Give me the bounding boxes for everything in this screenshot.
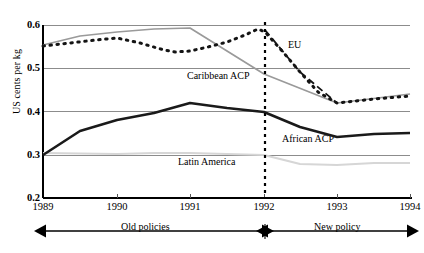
series-line-eu <box>43 29 410 103</box>
chart-canvas <box>0 0 424 253</box>
chart-figure: US cents per kg 0.6 0.5 0.4 0.3 0.2 1989… <box>0 0 424 253</box>
series-line-eu-dashed-descent <box>265 30 337 103</box>
policy-band-arrows <box>46 224 407 239</box>
x-axis-ticks <box>117 194 410 198</box>
